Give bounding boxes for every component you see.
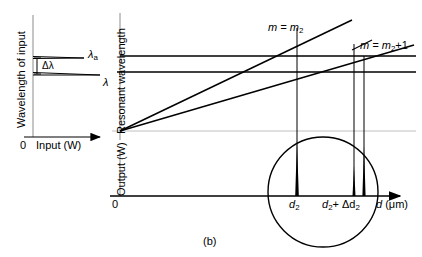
delta-lambda-label: Δλ [42, 61, 54, 71]
figure-caption: (b) [203, 236, 216, 247]
peak-mid [353, 166, 356, 196]
mode-line-m2-plus-1 [120, 45, 414, 131]
mode-label-m2-plus-1: m = m2+1 [360, 40, 408, 53]
middle-panel-y-axis-label: Resonant wavelength [116, 28, 127, 134]
magnifier-circle [268, 137, 378, 247]
mode-line-m2 [120, 20, 352, 131]
left-panel-axes [24, 15, 100, 137]
left-panel-delta-lambda-bracket [34, 58, 41, 74]
bottom-panel-x-axis-label: d (μm) [376, 199, 408, 210]
figure-panel-b: Wavelength of input 0 Input (W) λa λ Δλ … [0, 0, 422, 257]
tick-label-d2-delta-d2: d2+ Δd2 [322, 199, 360, 212]
mode-label-m2: m = m2 [268, 22, 303, 35]
middle-panel-mode-lines [120, 20, 414, 131]
peak-d2 [295, 140, 299, 196]
left-panel-y-axis-label: Wavelength of input [16, 31, 27, 128]
middle-panel-resonance-lines [117, 56, 416, 72]
tick-label-d2: d2 [289, 199, 300, 212]
lambda-label: λ [103, 77, 108, 88]
left-panel-x-origin-label: 0 [20, 140, 26, 151]
bottom-panel-x-origin-label: 0 [112, 199, 118, 210]
left-panel-lambda-line [33, 73, 100, 76]
lambda-a-label: λa [88, 49, 98, 62]
middle-panel-axes [112, 13, 416, 140]
figure-vector-graphics [0, 0, 422, 257]
bottom-panel-peaks [295, 140, 365, 196]
left-panel-x-axis-label: Input (W) [36, 140, 81, 151]
bottom-panel-y-axis-label: Output (W) [116, 142, 127, 196]
bottom-panel-axes [110, 150, 400, 196]
